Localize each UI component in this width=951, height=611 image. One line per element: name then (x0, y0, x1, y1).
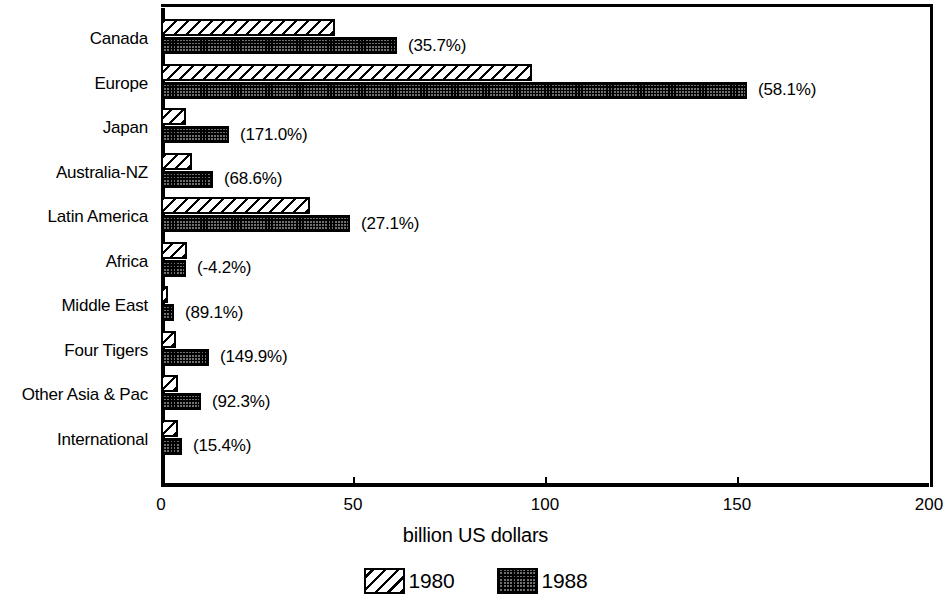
category-label-other-asia-pac: Other Asia & Pac (22, 386, 148, 403)
bar-1988-africa (161, 260, 186, 277)
category-label-canada: Canada (90, 30, 148, 47)
x-tick-label-200: 200 (915, 495, 943, 515)
category-label-international: International (57, 430, 148, 447)
bar-1988-canada (161, 37, 397, 54)
x-tick-label-100: 100 (531, 495, 559, 515)
table-row: Four Tigers (149.9%) (161, 328, 951, 373)
growth-label-international: (15.4%) (182, 438, 251, 455)
bar-1980-japan (161, 108, 186, 125)
legend-label-1980: 1980 (409, 569, 455, 593)
bar-1988-other-asia-pac (161, 393, 201, 410)
growth-label-latin-america: (27.1%) (350, 215, 419, 232)
bar-1980-latin-america (161, 197, 310, 214)
bar-1980-canada (161, 19, 335, 36)
growth-label-canada: (35.7%) (397, 37, 466, 54)
growth-label-africa: (-4.2%) (186, 260, 251, 277)
bar-group-other-asia-pac: (92.3%) (161, 375, 951, 413)
bar-1988-four-tigers (161, 349, 209, 366)
x-tick-0 (161, 477, 163, 486)
bar-1980-international (161, 420, 178, 437)
category-label-latin-america: Latin America (48, 208, 148, 225)
bar-1988-japan (161, 126, 229, 143)
growth-label-other-asia-pac: (92.3%) (201, 393, 270, 410)
bar-1980-africa (161, 242, 187, 259)
x-tick-label-50: 50 (344, 495, 363, 515)
bar-1980-middle-east (161, 286, 168, 303)
x-tick-100 (545, 477, 547, 486)
bar-1980-other-asia-pac (161, 375, 178, 392)
x-tick-label-150: 150 (723, 495, 751, 515)
category-label-four-tigers: Four Tigers (64, 341, 148, 358)
table-row: Europe (58.1%) (161, 61, 951, 106)
table-row: Australia-NZ (68.6%) (161, 150, 951, 195)
table-row: Other Asia & Pac (92.3%) (161, 372, 951, 417)
x-tick-150 (737, 477, 739, 486)
bar-1980-four-tigers (161, 331, 176, 348)
bar-1988-latin-america (161, 215, 350, 232)
category-label-japan: Japan (103, 119, 148, 136)
growth-label-four-tigers: (149.9%) (209, 349, 287, 366)
table-row: Latin America (27.1%) (161, 194, 951, 239)
bar-1988-international (161, 438, 182, 455)
category-label-australia-nz: Australia-NZ (56, 163, 148, 180)
category-label-middle-east: Middle East (61, 297, 148, 314)
growth-label-australia-nz: (68.6%) (213, 171, 282, 188)
bar-group-latin-america: (27.1%) (161, 197, 951, 235)
bar-1988-australia-nz (161, 171, 213, 188)
bar-group-japan: (171.0%) (161, 108, 951, 146)
growth-label-middle-east: (89.1%) (174, 304, 243, 321)
legend: 1980 1988 (0, 568, 951, 594)
x-tick-50 (353, 477, 355, 486)
table-row: Canada (35.7%) (161, 16, 951, 61)
bar-group-australia-nz: (68.6%) (161, 153, 951, 191)
growth-by-region-bar-chart: Canada (35.7%) Europe (58.1%) Japan (171… (0, 0, 951, 611)
table-row: Middle East (89.1%) (161, 283, 951, 328)
bar-group-four-tigers: (149.9%) (161, 331, 951, 369)
bar-1988-middle-east (161, 304, 174, 321)
bar-1980-europe (161, 64, 532, 81)
bar-1988-europe (161, 82, 747, 99)
legend-swatch-1988-icon (497, 568, 538, 594)
legend-swatch-1980-icon (364, 568, 405, 594)
legend-item-1980: 1980 (364, 568, 455, 594)
x-axis-title: billion US dollars (0, 524, 951, 547)
table-row: Africa (-4.2%) (161, 239, 951, 284)
table-row: Japan (171.0%) (161, 105, 951, 150)
bar-rows: Canada (35.7%) Europe (58.1%) Japan (171… (161, 16, 951, 480)
category-label-africa: Africa (106, 252, 148, 269)
legend-item-1988: 1988 (497, 568, 588, 594)
bar-group-canada: (35.7%) (161, 19, 951, 57)
growth-label-japan: (171.0%) (229, 126, 307, 143)
bar-group-europe: (58.1%) (161, 64, 951, 102)
bar-group-middle-east: (89.1%) (161, 286, 951, 324)
bar-1980-australia-nz (161, 153, 192, 170)
x-tick-label-0: 0 (156, 495, 165, 515)
legend-label-1988: 1988 (542, 569, 588, 593)
growth-label-europe: (58.1%) (747, 82, 816, 99)
bar-group-international: (15.4%) (161, 420, 951, 458)
x-axis: 0 50 100 150 200 (161, 487, 929, 527)
bar-group-africa: (-4.2%) (161, 242, 951, 280)
table-row: International (15.4%) (161, 417, 951, 462)
category-label-europe: Europe (94, 74, 148, 91)
